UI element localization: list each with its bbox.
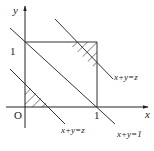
hatched-region-lower-left (25, 83, 50, 107)
x-tick-1: 1 (94, 109, 100, 121)
label-x-plus-y-equals-z-upper: x+y=z (113, 72, 138, 82)
y-tick-1: 1 (10, 45, 16, 57)
origin-label: O (14, 109, 22, 121)
unit-square-diagram: y x O 1 1 x+y=z x+y=z x+y=1 (0, 0, 154, 151)
hatched-region-upper-right (67, 42, 97, 70)
label-x-plus-y-equals-1: x+y=1 (116, 129, 142, 139)
label-x-plus-y-equals-z-lower: x+y=z (60, 125, 85, 135)
x-axis-label: x (144, 108, 150, 120)
y-axis-label: y (12, 4, 18, 16)
line-x-plus-y-equals-z-upper (55, 19, 113, 79)
